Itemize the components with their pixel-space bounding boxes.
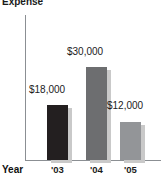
x-axis-tick-label: '03 — [41, 164, 74, 175]
x-axis-title: Year — [2, 164, 23, 175]
x-axis-tick-label: '04 — [80, 164, 113, 175]
bar-value-label: $30,000 — [67, 46, 103, 57]
bar-04 — [86, 67, 107, 160]
plot-area: $18,000$30,000$12,000 — [0, 0, 167, 179]
bar-05 — [120, 122, 141, 160]
bar-03 — [47, 105, 68, 160]
bar-value-label: $12,000 — [107, 100, 143, 111]
x-axis-tick-label: '05 — [114, 164, 147, 175]
bar-value-label: $18,000 — [29, 84, 65, 95]
bar-chart: Expense $18,000$30,000$12,000 Year '03'0… — [0, 0, 167, 179]
